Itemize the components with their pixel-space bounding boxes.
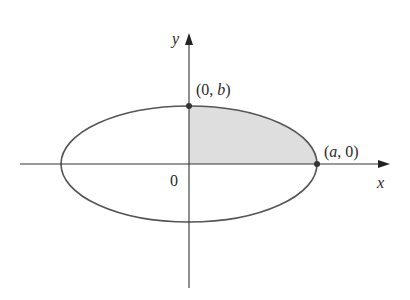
point-label-0-b: (0, b) — [196, 81, 231, 99]
x-axis-arrow-icon — [378, 160, 390, 168]
x-axis-label: x — [376, 174, 384, 191]
y-axis-label: y — [170, 30, 180, 48]
point-a-0 — [314, 161, 320, 167]
y-axis-arrow-icon — [185, 33, 193, 45]
origin-label: 0 — [170, 172, 178, 189]
ellipse-diagram: y x 0 (0, b) (a, 0) — [0, 0, 410, 300]
point-label-a-0: (a, 0) — [324, 143, 359, 161]
point-0-b — [186, 103, 192, 109]
